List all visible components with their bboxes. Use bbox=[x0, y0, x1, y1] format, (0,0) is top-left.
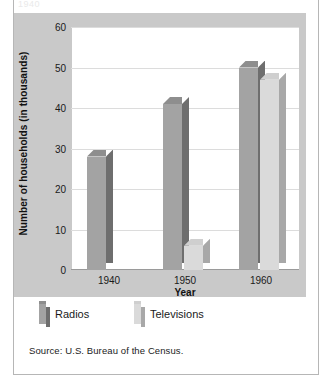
x-axis-title: Year bbox=[71, 287, 299, 298]
legend-label: Televisions bbox=[150, 308, 204, 320]
source-divider bbox=[14, 336, 318, 337]
x-axis-tick-label: 1950 bbox=[155, 275, 215, 286]
bar-radios-1950 bbox=[163, 104, 182, 270]
bar-front-face bbox=[239, 68, 258, 271]
bar-side-face bbox=[279, 73, 286, 263]
y-axis-tick-label: 60 bbox=[19, 22, 66, 33]
legend-swatch-front bbox=[39, 304, 46, 324]
bar-top-face bbox=[163, 97, 182, 104]
bar-radios-1960 bbox=[239, 68, 258, 271]
legend-item-radios[interactable]: Radios bbox=[39, 304, 89, 324]
bar-side-face bbox=[203, 239, 210, 263]
y-axis-tick-label: 20 bbox=[19, 184, 66, 195]
legend-swatch-icon bbox=[39, 304, 46, 324]
plot-area bbox=[71, 27, 299, 270]
bar-top-face bbox=[87, 150, 106, 157]
y-axis-tick-label: 10 bbox=[19, 224, 66, 235]
bar-televisions-1950 bbox=[184, 246, 203, 270]
chart-figure: 1940 Number of households (in thousands)… bbox=[13, 0, 319, 375]
cut-off-title: 1940 bbox=[18, 0, 198, 9]
x-axis-tick-label: 1960 bbox=[231, 275, 291, 286]
y-axis-tick-label: 30 bbox=[19, 143, 66, 154]
legend-swatch-front bbox=[134, 304, 141, 324]
x-axis-tick-label: 1940 bbox=[79, 275, 139, 286]
bar-front-face bbox=[184, 246, 203, 270]
bar-front-face bbox=[163, 104, 182, 270]
y-axis-tick-label: 0 bbox=[19, 265, 66, 276]
gridline bbox=[71, 27, 299, 28]
source-note: Source: U.S. Bureau of the Census. bbox=[29, 345, 183, 356]
bar-televisions-1960 bbox=[260, 80, 279, 270]
bar-side-face bbox=[182, 97, 189, 263]
chart-panel: Number of households (in thousands) 0102… bbox=[14, 13, 306, 297]
legend-swatch-side bbox=[141, 307, 145, 327]
bar-side-face bbox=[106, 150, 113, 263]
legend-item-televisions[interactable]: Televisions bbox=[134, 304, 204, 324]
y-axis-tick-label: 50 bbox=[19, 62, 66, 73]
bar-front-face bbox=[260, 80, 279, 270]
y-axis-tick-label: 40 bbox=[19, 103, 66, 114]
bar-radios-1940 bbox=[87, 157, 106, 270]
bar-front-face bbox=[87, 157, 106, 270]
legend-label: Radios bbox=[55, 308, 89, 320]
bar-top-face bbox=[239, 61, 258, 68]
legend-swatch-side bbox=[46, 307, 50, 327]
legend-swatch-icon bbox=[134, 304, 141, 324]
chart-legend: RadiosTelevisions bbox=[14, 300, 318, 334]
